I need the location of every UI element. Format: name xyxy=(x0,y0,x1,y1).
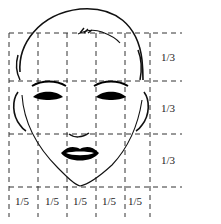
row-label-middle-third: 1/3 xyxy=(161,103,175,114)
eyes xyxy=(33,92,126,100)
column-label-1: 1/5 xyxy=(15,196,29,207)
column-label-2: 1/5 xyxy=(45,196,59,207)
ears xyxy=(14,92,149,131)
face-drawing xyxy=(0,0,221,224)
column-label-3: 1/5 xyxy=(73,196,87,207)
row-label-top-third: 1/3 xyxy=(161,52,175,63)
column-label-4: 1/5 xyxy=(102,196,116,207)
column-label-5: 1/5 xyxy=(128,196,142,207)
mouth xyxy=(61,147,99,160)
row-label-bottom-third: 1/3 xyxy=(161,155,175,166)
eyebrows xyxy=(32,82,128,87)
face-proportion-diagram: 1/3 1/3 1/3 1/5 1/5 1/5 1/5 1/5 xyxy=(0,0,221,224)
proportion-grid xyxy=(9,33,182,217)
